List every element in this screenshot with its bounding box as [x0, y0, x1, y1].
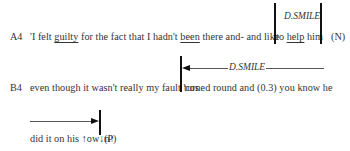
- line-b4-text-1: even though it wasn't really my fault 'c…: [30, 82, 199, 94]
- a4-seg-guilty: guilty: [54, 31, 78, 42]
- code-a4: (N): [331, 31, 345, 43]
- smile-1-end-bar: [320, 3, 322, 44]
- line-a4-text-b: to help him: [276, 31, 323, 43]
- line-b4-cont-text: did it on his ↑ow↓n↑: [30, 133, 115, 145]
- smile-2-end-arrow-line: [30, 121, 92, 122]
- line-label-b4: B4: [10, 82, 22, 94]
- line-b4-text-2: turned round and (0.3) you know he: [184, 82, 333, 94]
- a4-seg-5: to: [276, 31, 287, 42]
- line-label-a4: A4: [10, 31, 22, 43]
- a4-seg-been: been: [180, 31, 199, 42]
- smile-2-start-bar: [180, 56, 182, 92]
- arrow-left-icon: [182, 65, 190, 71]
- arrow-right-icon: [91, 118, 99, 124]
- a4-seg-2: for the fact that I hadn't: [78, 31, 180, 42]
- line-a4-text: 'I felt guilty for the fact that I hadn'…: [30, 31, 279, 43]
- code-b4: (P): [104, 133, 116, 145]
- smile-2-label: D.SMILE: [228, 62, 266, 73]
- smile-1-start-bar: [274, 3, 276, 44]
- a4-seg-4: there and- and like: [200, 31, 280, 42]
- smile-2-end-bar: [99, 110, 101, 135]
- a4-seg-0: 'I felt: [30, 31, 54, 42]
- a4-seg-help: help: [287, 31, 305, 42]
- smile-1-label: D.SMILE: [283, 11, 321, 22]
